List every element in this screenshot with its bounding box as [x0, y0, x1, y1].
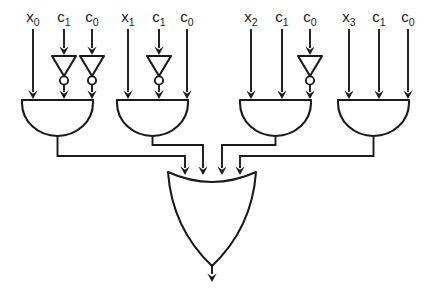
and-gate-3	[338, 100, 409, 136]
input-label-c1: c1	[275, 8, 289, 28]
group-1: x1 c1 c0	[117, 8, 208, 175]
wire-and2-to-or	[222, 136, 276, 168]
input-label-c0: c0	[401, 8, 415, 28]
arrow-or-output	[207, 274, 216, 283]
inverter-g0-c0	[80, 56, 104, 85]
group-0: x0 c1 c0	[22, 8, 190, 175]
input-label-x3: x3	[342, 8, 356, 28]
group-3: x3 c1 c0	[235, 8, 414, 175]
group-2: x2 c1 c0	[217, 8, 322, 175]
wire-and3-to-or	[240, 136, 374, 168]
input-label-x0: x0	[26, 8, 40, 28]
input-label-c0: c0	[303, 8, 317, 28]
input-label-c1: c1	[152, 8, 166, 28]
wire-and1-to-or	[153, 136, 204, 168]
and-gate-1	[117, 100, 188, 136]
input-label-c0: c0	[180, 8, 194, 28]
inverter-g1-c1	[147, 56, 171, 85]
or-gate	[168, 172, 256, 282]
wire-and0-to-or	[58, 136, 186, 168]
inverter-g0-c1	[52, 56, 76, 85]
circuit-canvas: x0 c1 c0	[0, 0, 434, 288]
and-gate-2	[240, 100, 311, 136]
input-label-c1: c1	[372, 8, 386, 28]
and-gate-0	[22, 100, 93, 136]
inverter-g2-c0	[298, 56, 322, 85]
input-label-c1: c1	[57, 8, 71, 28]
circuit-diagram: x0 c1 c0	[0, 0, 434, 288]
input-label-x1: x1	[121, 8, 135, 28]
input-label-x2: x2	[244, 8, 258, 28]
input-label-c0: c0	[85, 8, 99, 28]
